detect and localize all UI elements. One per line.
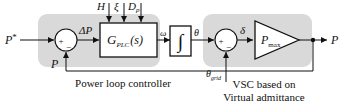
ref-signal-label: P* (4, 32, 17, 47)
summer1-minus-sign: − (66, 42, 71, 52)
power-loop-caption: Power loop controller (75, 77, 171, 89)
theta-grid-label: θgrid (206, 68, 222, 81)
damping-param-label: Dp (127, 0, 140, 14)
summer2-minus-sign: − (226, 42, 231, 52)
error-signal-label: ΔP (78, 24, 92, 36)
output-signal-label: P (330, 33, 339, 47)
vsc-caption-line2: Virtual admittance (223, 91, 305, 103)
ref-signal-sup: * (12, 32, 17, 42)
omega-signal-label: ω (160, 28, 166, 38)
summer2-plus-sign: + (218, 36, 223, 46)
damping-ratio-param-label: ξ (114, 0, 119, 13)
figure-canvas: P* + − ΔP H ξ Dp GPLC(s) ω ∫ θ (0, 0, 353, 108)
block-diagram: P* + − ΔP H ξ Dp GPLC(s) ω ∫ θ (0, 0, 353, 108)
vsc-caption-line1: VSC based on (233, 78, 296, 90)
feedback-signal-label: P (50, 57, 59, 71)
theta-signal-label: θ (194, 27, 199, 38)
pmax-label-sub: max (268, 41, 281, 49)
plc-label-sub: PLC (115, 41, 129, 49)
summer1-plus-sign: + (58, 36, 63, 46)
damping-param-main: D (127, 0, 136, 12)
damping-param-sub: p (135, 6, 140, 14)
inertia-param-label: H (96, 0, 106, 12)
delta-signal-label: δ (240, 24, 246, 36)
theta-grid-sub: grid (211, 75, 222, 81)
plc-label-arg: (s) (130, 33, 143, 47)
